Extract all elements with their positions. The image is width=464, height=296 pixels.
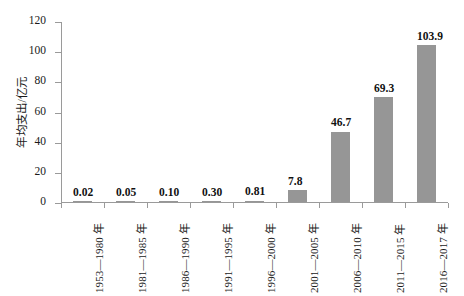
y-tick-120: 120 bbox=[55, 22, 61, 23]
bar-slot: 69.3 bbox=[362, 97, 405, 202]
bar-slot: 103.9 bbox=[405, 45, 448, 202]
x-tick bbox=[233, 203, 234, 208]
y-tick-label: 20 bbox=[35, 165, 47, 177]
bar-value-label: 103.9 bbox=[417, 31, 443, 43]
bar-slot: 0.02 bbox=[61, 201, 104, 202]
x-axis-category-label: 1981—1985 年 bbox=[132, 211, 145, 293]
bar[interactable]: 46.7 bbox=[331, 132, 350, 202]
bar[interactable]: 0.10 bbox=[159, 201, 178, 202]
bar-value-label: 46.7 bbox=[331, 117, 351, 129]
y-tick-label: 0 bbox=[40, 195, 46, 207]
bar-slot: 46.7 bbox=[319, 132, 362, 202]
bar[interactable]: 0.05 bbox=[116, 201, 135, 202]
x-axis-category-label: 2006—2010 年 bbox=[347, 211, 360, 293]
bar[interactable]: 7.8 bbox=[288, 190, 307, 202]
bar-value-label: 69.3 bbox=[374, 83, 394, 95]
x-tick bbox=[190, 203, 191, 208]
y-axis-title: 年均支出/亿元 bbox=[14, 22, 28, 202]
y-tick-label: 80 bbox=[35, 74, 47, 86]
bar[interactable]: 0.30 bbox=[202, 201, 221, 202]
x-axis-category-label: 1996—2000 年 bbox=[261, 211, 274, 293]
x-tick bbox=[319, 203, 320, 208]
bar-slot: 0.10 bbox=[147, 201, 190, 202]
bar-value-label: 0.10 bbox=[159, 187, 179, 199]
y-tick-label: 120 bbox=[29, 14, 46, 26]
bar[interactable]: 103.9 bbox=[417, 45, 436, 202]
y-tick-20: 20 bbox=[55, 173, 61, 174]
bar-chart: 年均支出/亿元 020406080100120 0.020.050.100.30… bbox=[0, 0, 464, 296]
y-axis-line bbox=[61, 22, 62, 203]
x-axis-category-label: 2016—2017 年 bbox=[433, 211, 446, 293]
y-tick-label: 40 bbox=[35, 135, 47, 147]
bar-value-label: 0.05 bbox=[116, 187, 136, 199]
x-tick bbox=[147, 203, 148, 208]
y-tick-40: 40 bbox=[55, 143, 61, 144]
plot-area: 020406080100120 0.020.050.100.300.817.84… bbox=[61, 22, 448, 203]
bar-slot: 0.05 bbox=[104, 201, 147, 202]
x-tick bbox=[405, 203, 406, 208]
bar-slot: 0.30 bbox=[190, 201, 233, 202]
y-tick-80: 80 bbox=[55, 82, 61, 83]
x-axis-category-label: 1953—1980 年 bbox=[89, 211, 102, 293]
x-axis-line bbox=[61, 202, 448, 203]
x-axis-category-label: 1991—1995 年 bbox=[218, 211, 231, 293]
x-tick bbox=[362, 203, 363, 208]
bar-value-label: 0.02 bbox=[73, 187, 93, 199]
y-tick-60: 60 bbox=[55, 113, 61, 114]
bar[interactable]: 0.02 bbox=[73, 201, 92, 202]
x-tick bbox=[276, 203, 277, 208]
bar-value-label: 0.81 bbox=[245, 186, 265, 198]
bar[interactable]: 69.3 bbox=[374, 97, 393, 202]
x-tick bbox=[448, 203, 449, 208]
x-axis-category-label: 2001—2005 年 bbox=[304, 211, 317, 293]
y-tick-label: 60 bbox=[35, 105, 47, 117]
y-tick-100: 100 bbox=[55, 52, 61, 53]
bar-value-label: 7.8 bbox=[288, 176, 302, 188]
bar-slot: 7.8 bbox=[276, 190, 319, 202]
x-tick bbox=[104, 203, 105, 208]
bar-slot: 0.81 bbox=[233, 201, 276, 202]
x-tick bbox=[61, 203, 62, 208]
bar[interactable]: 0.81 bbox=[245, 201, 264, 202]
x-axis-category-label: 1986—1990 年 bbox=[175, 211, 188, 293]
y-tick-label: 100 bbox=[29, 44, 46, 56]
x-axis-category-label: 2011—2015 年 bbox=[390, 211, 403, 293]
bar-value-label: 0.30 bbox=[202, 187, 222, 199]
